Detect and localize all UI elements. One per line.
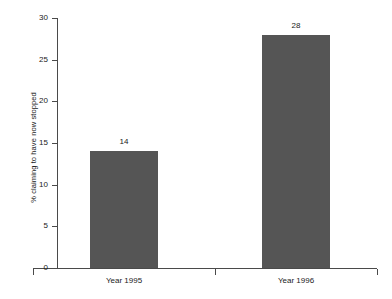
y-tick-mark	[52, 60, 57, 61]
y-tick-label: 10	[18, 180, 48, 189]
y-tick-mark	[52, 226, 57, 227]
x-tick-label: Year 1996	[236, 276, 356, 285]
y-tick-mark	[52, 143, 57, 144]
y-tick-mark	[52, 101, 57, 102]
bar-chart: % claiming to have now stopped 051015202…	[0, 0, 392, 299]
bar-value-label: 14	[94, 137, 154, 146]
y-tick-label: 5	[18, 221, 48, 230]
bar[interactable]	[262, 35, 330, 268]
y-tick-mark	[52, 185, 57, 186]
y-tick-mark	[52, 268, 57, 269]
x-tick-mark	[377, 269, 378, 275]
x-tick-mark	[33, 269, 34, 275]
y-tick-label: 25	[18, 55, 48, 64]
y-tick-label: 30	[18, 13, 48, 22]
bar-value-label: 28	[266, 21, 326, 30]
y-tick-label: 20	[18, 96, 48, 105]
x-tick-mark	[215, 269, 216, 275]
y-axis-line	[57, 18, 58, 269]
x-axis-line	[33, 268, 377, 269]
y-tick-mark	[52, 18, 57, 19]
bar[interactable]	[90, 151, 158, 268]
x-tick-label: Year 1995	[64, 276, 184, 285]
y-tick-label: 15	[18, 138, 48, 147]
y-axis-title: % claiming to have now stopped	[29, 53, 38, 243]
